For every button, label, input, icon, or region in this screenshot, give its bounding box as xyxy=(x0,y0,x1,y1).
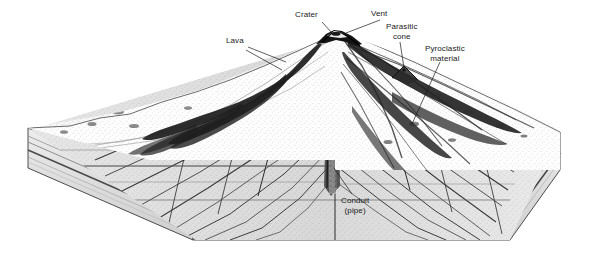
label-vent: Vent xyxy=(371,9,387,19)
label-parasitic-cone-line1: Parasitic xyxy=(386,22,418,32)
label-pyroclastic-line1: Pyroclastic xyxy=(425,44,465,54)
label-pyroclastic-line2: material xyxy=(425,54,465,64)
label-pyroclastic-material: Pyroclastic material xyxy=(425,44,465,63)
label-crater: Crater xyxy=(295,10,318,20)
label-conduit-line2: (pipe) xyxy=(341,206,369,216)
label-parasitic-cone-line2: cone xyxy=(386,32,418,42)
label-conduit-line1: Conduit xyxy=(341,196,369,206)
volcano-diagram-svg xyxy=(0,0,596,256)
volcano-block-diagram: Lava Crater Vent Parasitic cone Pyroclas… xyxy=(0,0,596,256)
label-parasitic-cone: Parasitic cone xyxy=(386,22,418,41)
label-conduit-pipe: Conduit (pipe) xyxy=(341,196,369,215)
summit-vent-opening xyxy=(332,32,341,36)
label-lava: Lava xyxy=(226,36,244,46)
